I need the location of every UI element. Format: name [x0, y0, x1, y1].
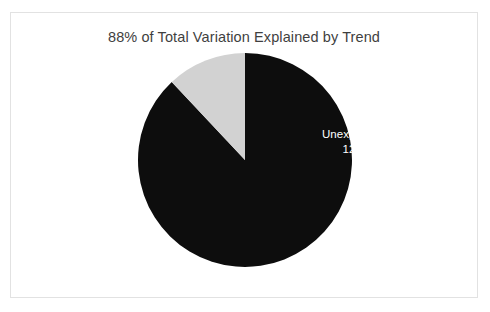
chart-frame: 88% of Total Variation Explained by Tren… — [10, 12, 478, 298]
pie-chart: Unexplained 12% Explained 88% — [132, 47, 358, 273]
pie-label-explained-name: Explained — [372, 254, 472, 269]
pie-label-explained: Explained 88% — [372, 254, 472, 284]
pie-svg — [132, 47, 358, 273]
chart-title: 88% of Total Variation Explained by Tren… — [11, 29, 477, 45]
pie-label-explained-value: 88% — [372, 269, 472, 284]
